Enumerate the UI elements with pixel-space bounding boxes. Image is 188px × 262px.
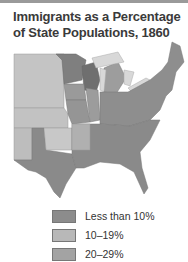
territory-nebraska-kansas	[14, 108, 68, 128]
state-missouri	[66, 100, 90, 124]
state-iowa	[64, 84, 86, 100]
territory-indian	[44, 128, 72, 150]
top-rule	[0, 0, 188, 3]
state-michigan	[104, 62, 126, 94]
legend-swatch	[52, 210, 76, 223]
map-title: Immigrants as a Percentage of State Popu…	[13, 9, 181, 41]
territory-dakota	[14, 54, 64, 108]
us-map	[0, 40, 188, 200]
legend-label: Less than 10%	[85, 210, 154, 223]
lake-huron	[124, 70, 134, 86]
legend-swatch	[52, 229, 76, 242]
territory-new-mexico	[14, 128, 32, 160]
title-line-2: of State Populations, 1860	[13, 25, 181, 41]
legend-swatch	[52, 248, 76, 261]
legend-label: 20–29%	[85, 248, 124, 261]
legend-label: 10–19%	[85, 229, 124, 242]
state-arkansas	[72, 124, 90, 150]
title-line-1: Immigrants as a Percentage	[13, 9, 181, 25]
